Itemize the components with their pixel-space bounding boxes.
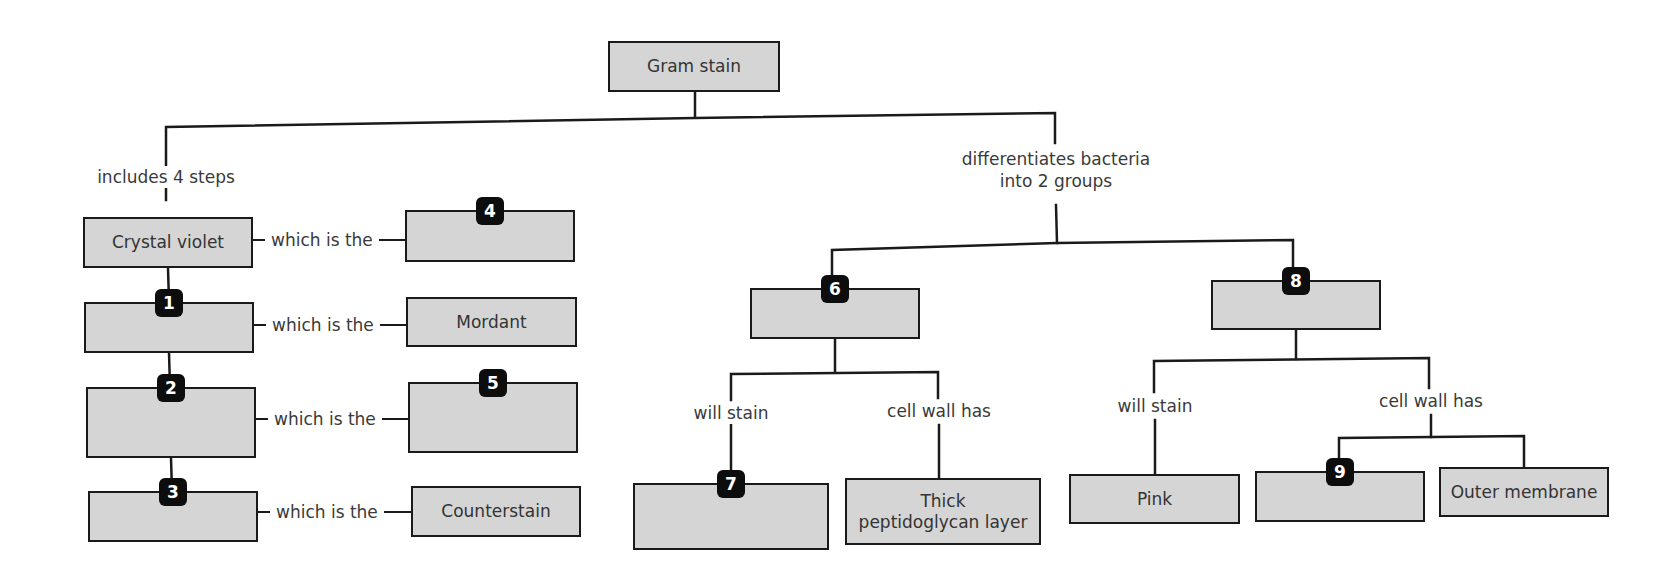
edge-label-will-stain-right: will stain bbox=[1115, 395, 1196, 417]
connector-dash bbox=[254, 324, 266, 327]
role-counterstain-label: Counterstain bbox=[441, 501, 550, 522]
number-badge-8: 8 bbox=[1282, 267, 1310, 295]
which-is-the-connector: which is the bbox=[254, 314, 406, 336]
number-badge-7: 7 bbox=[717, 470, 745, 498]
connector-dash bbox=[382, 418, 408, 421]
number-badge-5: 5 bbox=[479, 369, 507, 397]
which-is-the-connector: which is the bbox=[253, 229, 405, 251]
leaf-thick-peptidoglycan-label: Thick peptidoglycan layer bbox=[859, 491, 1028, 533]
role-counterstain-box: Counterstain bbox=[411, 486, 581, 537]
number-badge-1: 1 bbox=[155, 289, 183, 317]
edge-label-includes-4-steps: includes 4 steps bbox=[94, 166, 238, 188]
connector-text: which is the bbox=[276, 501, 378, 523]
connector-text: which is the bbox=[271, 229, 373, 251]
number-badge-6: 6 bbox=[821, 275, 849, 303]
role-mordant-label: Mordant bbox=[456, 312, 526, 333]
edge-label-differentiates-bacteria: differentiates bacteria into 2 groups bbox=[959, 148, 1154, 192]
number-badge-4: 4 bbox=[476, 197, 504, 225]
root-node-label: Gram stain bbox=[647, 56, 741, 77]
connector-dash bbox=[384, 511, 411, 514]
edge-label-will-stain-left: will stain bbox=[691, 402, 772, 424]
leaf-pink-label: Pink bbox=[1137, 489, 1172, 510]
connector-dash bbox=[379, 239, 405, 242]
connector-text: which is the bbox=[272, 314, 374, 336]
connector-text: which is the bbox=[274, 408, 376, 430]
leaf-outer-membrane-label: Outer membrane bbox=[1451, 482, 1598, 503]
connector-dash bbox=[256, 418, 268, 421]
gram-stain-concept-map: Gram stain includes 4 steps differentiat… bbox=[0, 0, 1675, 578]
number-badge-3: 3 bbox=[159, 478, 187, 506]
edge-label-cell-wall-has-right: cell wall has bbox=[1376, 390, 1486, 412]
leaf-thick-peptidoglycan-box: Thick peptidoglycan layer bbox=[845, 478, 1041, 545]
connector-dash bbox=[253, 239, 265, 242]
number-badge-2: 2 bbox=[157, 374, 185, 402]
root-node-gram-stain: Gram stain bbox=[608, 41, 780, 92]
which-is-the-connector: which is the bbox=[256, 408, 408, 430]
leaf-pink-box: Pink bbox=[1069, 474, 1240, 524]
edge-label-cell-wall-has-left: cell wall has bbox=[884, 400, 994, 422]
crystal-violet-box: Crystal violet bbox=[83, 217, 253, 268]
role-mordant-box: Mordant bbox=[406, 297, 577, 347]
connector-dash bbox=[258, 511, 270, 514]
leaf-outer-membrane-box: Outer membrane bbox=[1439, 467, 1609, 517]
connector-dash bbox=[380, 324, 406, 327]
which-is-the-connector: which is the bbox=[258, 501, 411, 523]
crystal-violet-label: Crystal violet bbox=[112, 232, 224, 253]
number-badge-9: 9 bbox=[1326, 458, 1354, 486]
